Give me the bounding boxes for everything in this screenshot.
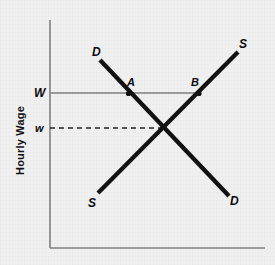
point-a-label: A — [127, 76, 135, 88]
supply-demand-figure: Hourly Wage W w D D S S A B — [0, 0, 275, 265]
demand-curve-label-top: D — [92, 45, 101, 59]
supply-curve-label-top: S — [239, 37, 247, 51]
y-tick-label-equilibrium-wage: w — [35, 122, 44, 134]
y-axis-title: Hourly Wage — [14, 109, 26, 175]
y-tick-label-upper-wage: W — [34, 86, 45, 100]
point-b-label: B — [191, 76, 199, 88]
point-b-marker — [196, 91, 201, 96]
supply-curve-line — [98, 52, 238, 193]
demand-curve-label-bottom: D — [230, 194, 239, 208]
supply-curve-label-bottom: S — [88, 196, 96, 210]
point-a-marker — [126, 91, 131, 96]
